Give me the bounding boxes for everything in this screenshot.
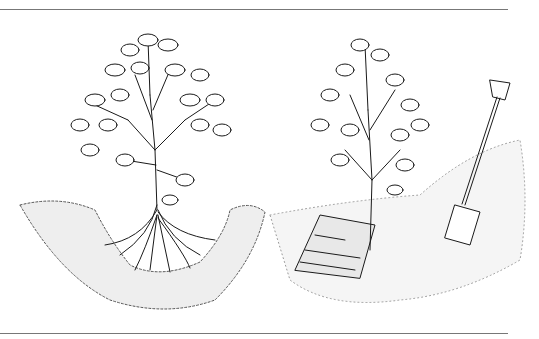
left-panel-shrub xyxy=(20,34,265,309)
right-panel-shrub-with-spade xyxy=(270,39,525,303)
planting-illustration xyxy=(0,0,539,339)
